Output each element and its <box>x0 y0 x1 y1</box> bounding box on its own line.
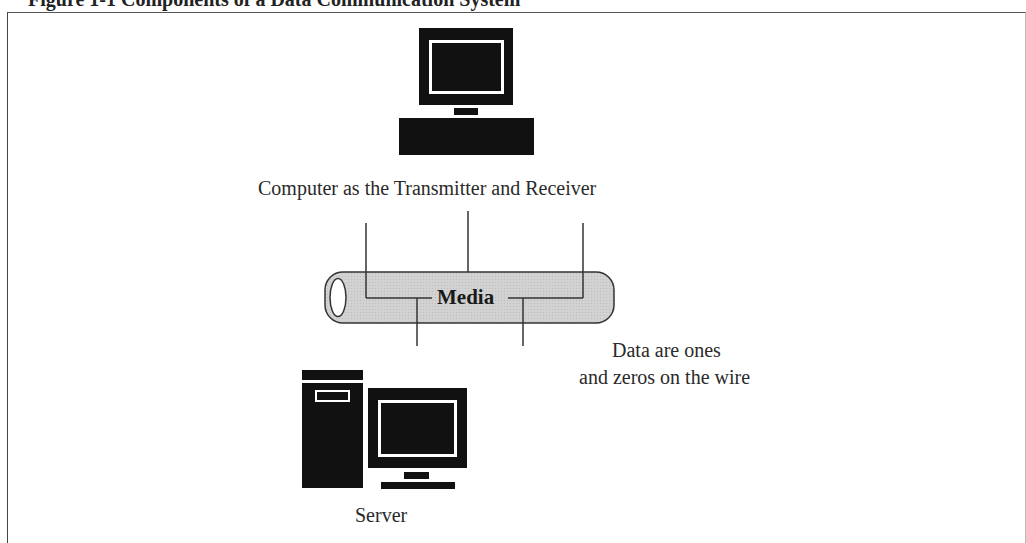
server-drive-slot <box>315 390 350 402</box>
tube-end-ellipse <box>330 279 346 317</box>
server-monitor-stand <box>404 472 429 479</box>
data-note-line1: Data are ones <box>612 339 721 362</box>
server-screen <box>378 400 457 457</box>
server-label: Server <box>355 504 407 527</box>
server-monitor-base <box>381 482 455 489</box>
media-label: Media <box>437 285 494 310</box>
data-note-line2: and zeros on the wire <box>579 366 750 389</box>
server-tower-top <box>302 370 363 380</box>
